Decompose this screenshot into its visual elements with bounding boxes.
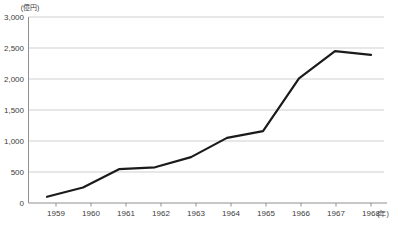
x-tick-label: 1964 [222, 209, 240, 218]
y-tick-label: 3,000 [4, 13, 25, 22]
y-tick-label: 2,000 [4, 75, 25, 84]
y-tick-label: 1,000 [4, 137, 25, 146]
chart-figure: 05001,0001,5002,0002,5003,00019591960196… [0, 0, 394, 225]
y-axis-unit-label: (億円) [21, 3, 40, 12]
data-line [47, 51, 371, 197]
x-tick-label: 1967 [327, 209, 345, 218]
x-tick-label: 1960 [82, 209, 100, 218]
x-tick-label: 1965 [257, 209, 275, 218]
y-tick-label: 1,500 [4, 106, 25, 115]
x-axis-unit-label: (年) [377, 209, 389, 218]
x-tick-label: 1961 [117, 209, 135, 218]
x-tick-label: 1966 [292, 209, 310, 218]
x-tick-label: 1959 [47, 209, 65, 218]
y-tick-label: 2,500 [4, 44, 25, 53]
x-tick-label: 1963 [187, 209, 205, 218]
y-tick-label: 500 [11, 168, 25, 177]
x-tick-label: 1962 [152, 209, 170, 218]
line-chart: 05001,0001,5002,0002,5003,00019591960196… [0, 0, 394, 225]
y-tick-label: 0 [20, 199, 25, 208]
